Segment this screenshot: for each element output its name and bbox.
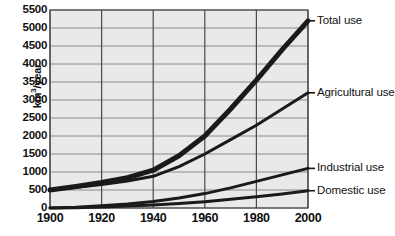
legend-leader-lines	[308, 21, 315, 191]
